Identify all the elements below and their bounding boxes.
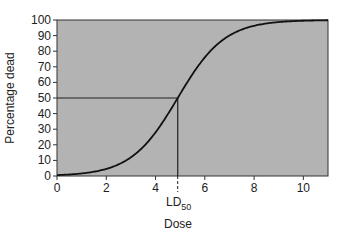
x-tick-label: 2	[103, 181, 110, 195]
y-tick-label: 40	[38, 107, 52, 121]
x-tick-label: 0	[54, 181, 61, 195]
y-axis-label: Percentage dead	[3, 52, 17, 143]
x-tick-label: 6	[201, 181, 208, 195]
y-tick-label: 0	[44, 169, 51, 183]
x-tick-label: 8	[251, 181, 258, 195]
x-tick-label: 10	[297, 181, 311, 195]
y-tick-label: 30	[38, 122, 52, 136]
y-tick-label: 70	[38, 60, 52, 74]
dose-response-chart: 0102030405060708090100 0246810 LD50 Dose…	[0, 0, 338, 239]
y-tick-label: 50	[38, 91, 52, 105]
y-tick-label: 100	[31, 13, 51, 27]
x-axis: 0246810	[54, 176, 311, 195]
y-tick-label: 20	[38, 138, 52, 152]
y-axis: 0102030405060708090100	[31, 13, 57, 183]
y-tick-label: 10	[38, 153, 52, 167]
x-axis-label: Dose	[164, 217, 192, 231]
y-tick-label: 60	[38, 75, 52, 89]
x-tick-label: 4	[152, 181, 159, 195]
ld50-label: LD50	[166, 195, 191, 212]
y-tick-label: 90	[38, 29, 52, 43]
y-tick-label: 80	[38, 44, 52, 58]
